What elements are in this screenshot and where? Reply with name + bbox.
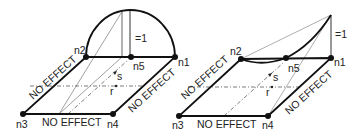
label-n5: n5 [133, 60, 145, 72]
node-n3 [20, 111, 26, 117]
edge-label-right: NO EFFECT [282, 67, 335, 116]
r-arrow-icon [115, 85, 117, 87]
node-n5 [283, 55, 289, 61]
label-n3: n3 [16, 118, 28, 130]
label-n1-left: n1 [178, 56, 190, 68]
s-axis-line [68, 60, 128, 114]
r-arrow-icon [271, 86, 273, 88]
left-diagram: n2 n5 n3 n4 =1 s r NO EFFECT NO EFFECT N… [16, 10, 178, 130]
axis-s-label: s [273, 71, 278, 83]
edge-label-bottom: NO EFFECT [42, 116, 102, 128]
label-n1: n1 [334, 56, 346, 68]
label-n5: n5 [288, 62, 300, 74]
axis-r-label: r [110, 85, 114, 97]
shape-function-diagram: n2 n5 n3 n4 =1 s r NO EFFECT NO EFFECT N… [0, 0, 359, 138]
right-diagram: n2 n5 n1 n3 n4 =1 s r NO EFFECT NO EFFEC… [172, 15, 347, 131]
node-n4 [110, 111, 116, 117]
axis-s-label: s [117, 70, 122, 82]
height-label: =1 [135, 32, 147, 44]
edge-label-right: NO EFFECT [125, 65, 178, 114]
label-n4: n4 [107, 118, 119, 130]
label-n3: n3 [172, 119, 184, 131]
height-label: =1 [335, 28, 347, 40]
label-n2: n2 [230, 45, 242, 57]
label-n2: n2 [74, 44, 86, 56]
axis-r-label: r [266, 86, 270, 98]
s-arrow-icon [268, 73, 272, 77]
edge-label-bottom: NO EFFECT [197, 118, 257, 130]
label-n4: n4 [262, 119, 274, 131]
